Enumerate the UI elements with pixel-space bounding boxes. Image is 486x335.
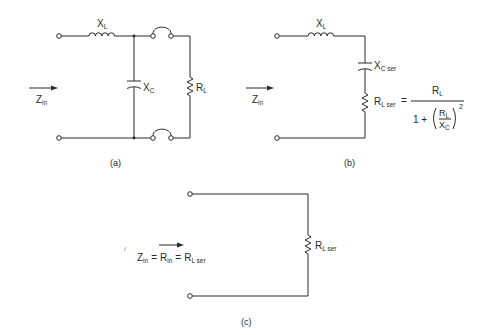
circuit-figure: XL XC RL Zin (a) XL XC ser Zin RL ser = … [0, 0, 486, 335]
jumper-terminal [151, 34, 156, 39]
input-terminal-top [188, 192, 193, 197]
capacitor-label: XC [143, 82, 155, 94]
svg-text:=: = [401, 95, 407, 106]
exponent: 2 [459, 103, 463, 110]
stray-mark [124, 247, 126, 251]
input-terminal-top [275, 34, 280, 39]
zin-equation: Zin=Rin=RL ser [137, 252, 206, 264]
zin-label: Zin [36, 94, 48, 106]
input-terminal-bottom [57, 136, 62, 141]
jumper-terminal [169, 136, 174, 141]
rl-ser-formula: RL ser = RL 1 + RL XC 2 [374, 85, 464, 131]
jumper-terminal [151, 136, 156, 141]
resistor-icon [187, 77, 193, 96]
svg-text:RL: RL [439, 108, 450, 119]
resistor-label: RL [196, 82, 207, 94]
capacitor-label: XC ser [374, 60, 397, 72]
inductor-label: XL [316, 18, 327, 30]
left-paren [434, 108, 437, 129]
jumper-link-bottom [153, 129, 171, 136]
right-paren [453, 108, 456, 129]
caption-b: (b) [344, 158, 355, 168]
jumper-terminal [169, 34, 174, 39]
input-terminal-top [57, 34, 62, 39]
input-terminal-bottom [275, 136, 280, 141]
svg-text:XC: XC [439, 120, 450, 131]
caption-c: (c) [241, 317, 252, 327]
diagram-a: XL XC RL Zin (a) [29, 18, 207, 168]
resistor-label: RL ser [374, 96, 396, 108]
svg-text:1 +: 1 + [413, 114, 427, 125]
formula-numerator: RL [432, 85, 443, 97]
diagram-b: XL XC ser Zin RL ser = RL 1 + RL XC 2 (b… [246, 18, 464, 168]
resistor-label: RL ser [315, 240, 337, 252]
jumper-link-top [153, 27, 171, 34]
input-terminal-bottom [188, 294, 193, 299]
inductor-label: XL [97, 18, 108, 30]
diagram-c: Zin=Rin=RL ser RL ser (c) [124, 192, 337, 327]
zin-label: Zin [252, 94, 264, 106]
inductor-icon [89, 33, 115, 36]
resistor-icon [305, 235, 311, 254]
inductor-icon [308, 33, 334, 36]
resistor-icon [362, 93, 368, 112]
caption-a: (a) [110, 158, 121, 168]
